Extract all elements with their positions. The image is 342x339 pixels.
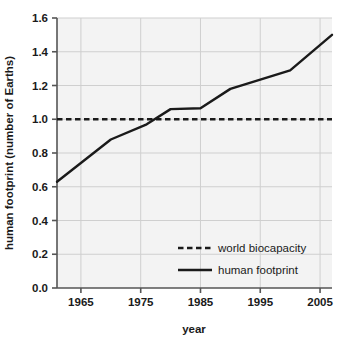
y-tick-label: 0.0	[32, 282, 48, 294]
y-axis-title: human footprint (number of Earths)	[3, 56, 15, 250]
y-tick-label: 0.2	[32, 248, 48, 260]
x-axis-title: year	[182, 323, 206, 335]
y-tick-label: 0.8	[32, 147, 49, 159]
y-tick-label: 1.4	[32, 46, 49, 58]
y-tick-label: 0.4	[32, 215, 49, 227]
human-footprint-line-chart: 0.00.20.40.60.81.01.21.41.6 196519751985…	[0, 0, 342, 339]
y-tick-label: 1.6	[32, 12, 48, 24]
legend-label: world biocapacity	[217, 242, 306, 254]
legend-label: human footprint	[218, 264, 299, 276]
x-tick-label: 1965	[68, 296, 94, 308]
x-tick-label: 1975	[128, 296, 154, 308]
y-tick-label: 0.6	[32, 181, 48, 193]
y-tick-label: 1.2	[32, 80, 48, 92]
x-tick-label: 2005	[307, 296, 333, 308]
x-tick-label: 1995	[247, 296, 273, 308]
y-tick-label: 1.0	[32, 113, 48, 125]
x-tick-label: 1985	[188, 296, 214, 308]
chart-figure: 0.00.20.40.60.81.01.21.41.6 196519751985…	[0, 0, 342, 339]
